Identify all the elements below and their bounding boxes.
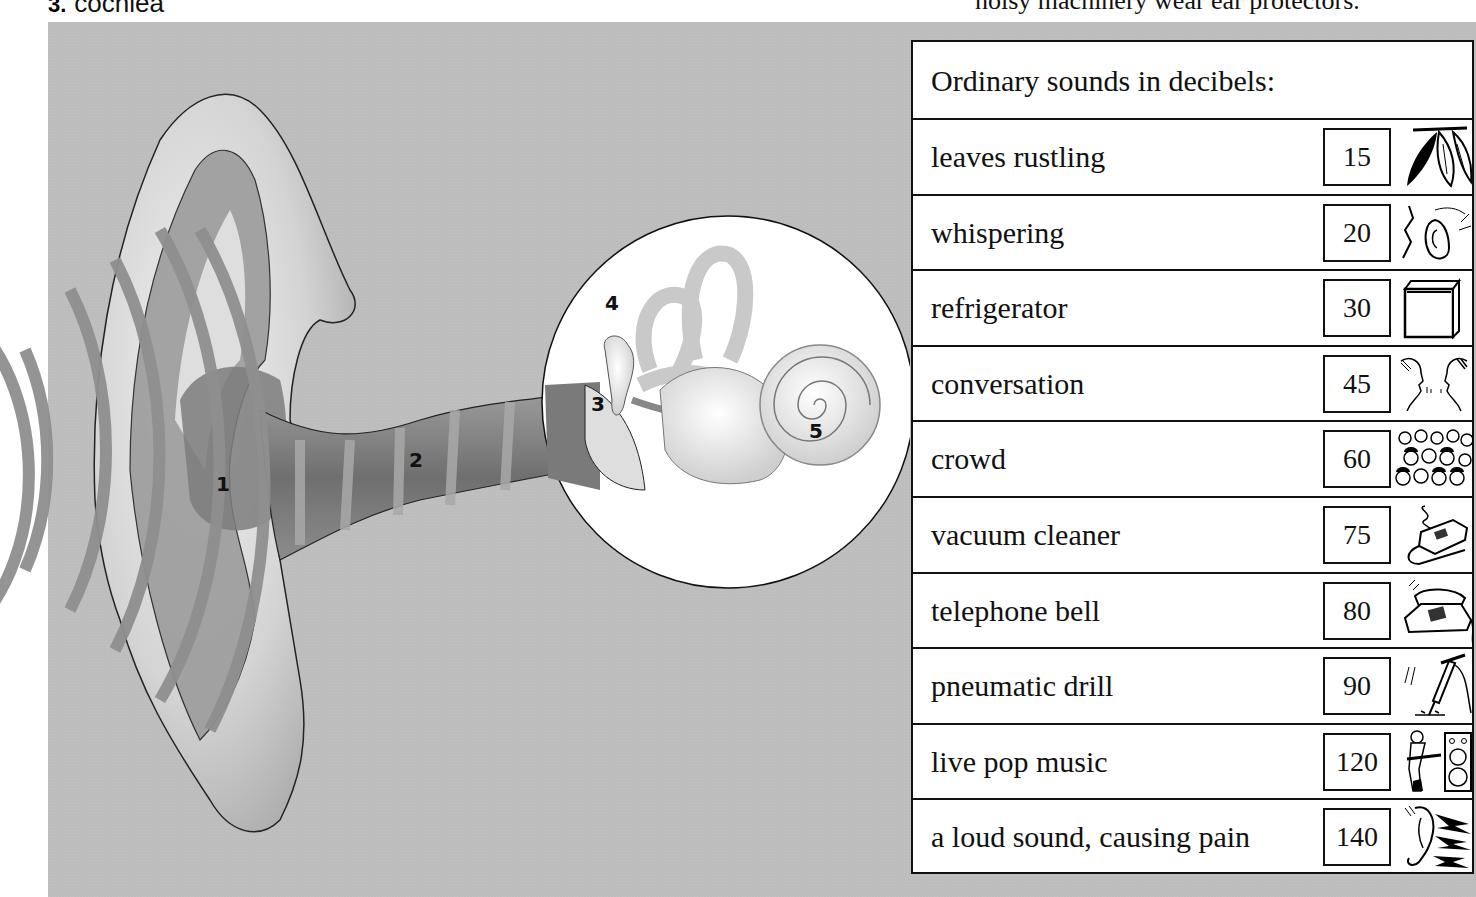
decibel-value: 75 bbox=[1323, 506, 1391, 564]
conversation-faces-icon bbox=[1395, 351, 1473, 417]
table-row: whispering 20 bbox=[913, 196, 1472, 272]
table-row: leaves rustling 15 bbox=[913, 120, 1472, 196]
decibel-value: 20 bbox=[1323, 204, 1391, 262]
sound-label: pneumatic drill bbox=[931, 649, 1113, 722]
table-row: refrigerator 30 bbox=[913, 271, 1472, 347]
label-middle-ear-bones: 4 bbox=[605, 291, 619, 315]
ear-diagram: 1 2 3 4 5 bbox=[0, 0, 910, 897]
decibel-value: 80 bbox=[1323, 582, 1391, 640]
sound-label: refrigerator bbox=[931, 271, 1068, 344]
sound-label: whispering bbox=[931, 196, 1064, 269]
decibel-value: 90 bbox=[1323, 657, 1391, 715]
decibel-value: 30 bbox=[1323, 279, 1391, 337]
sound-label: vacuum cleaner bbox=[931, 498, 1120, 571]
sound-label: a loud sound, causing pain bbox=[931, 800, 1250, 873]
ear-pain-lightning-icon bbox=[1395, 804, 1473, 870]
decibel-value: 60 bbox=[1323, 430, 1391, 488]
leaves-icon bbox=[1395, 124, 1473, 190]
sound-label: telephone bell bbox=[931, 574, 1100, 647]
label-ear-canal: 2 bbox=[409, 448, 423, 472]
table-row: a loud sound, causing pain 140 bbox=[913, 800, 1472, 876]
table-row: pneumatic drill 90 bbox=[913, 649, 1472, 725]
refrigerator-icon bbox=[1395, 275, 1473, 341]
telephone-icon bbox=[1395, 578, 1473, 644]
decibel-value: 45 bbox=[1323, 355, 1391, 413]
guitarist-speaker-icon bbox=[1395, 729, 1473, 795]
crowd-icon bbox=[1395, 426, 1473, 492]
pneumatic-drill-icon bbox=[1395, 653, 1473, 719]
table-row: conversation 45 bbox=[913, 347, 1472, 423]
sound-label: leaves rustling bbox=[931, 120, 1105, 193]
vacuum-cleaner-icon bbox=[1395, 502, 1473, 568]
table-row: crowd 60 bbox=[913, 422, 1472, 498]
decibel-value: 140 bbox=[1323, 808, 1391, 866]
ear-anatomy-icon bbox=[0, 0, 910, 897]
whisper-ear-icon bbox=[1395, 200, 1473, 266]
label-outer-ear: 1 bbox=[216, 472, 230, 496]
sound-label: conversation bbox=[931, 347, 1084, 420]
table-row: vacuum cleaner 75 bbox=[913, 498, 1472, 574]
table-row: telephone bell 80 bbox=[913, 574, 1472, 650]
table-row: live pop music 120 bbox=[913, 725, 1472, 801]
sound-label: live pop music bbox=[931, 725, 1108, 798]
table-title: Ordinary sounds in decibels: bbox=[913, 42, 1472, 120]
sound-label: crowd bbox=[931, 422, 1006, 495]
decibel-value: 120 bbox=[1323, 733, 1391, 791]
decibel-value: 15 bbox=[1323, 128, 1391, 186]
clipped-paragraph-text-right: noisy machinery wear ear protectors. bbox=[975, 0, 1360, 16]
decibel-table: Ordinary sounds in decibels: leaves rust… bbox=[911, 40, 1474, 874]
label-cochlea: 5 bbox=[809, 419, 823, 443]
label-eardrum: 3 bbox=[591, 392, 605, 416]
